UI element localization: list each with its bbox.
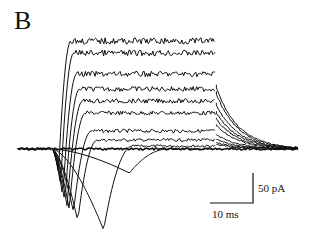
current-trace xyxy=(18,148,51,150)
scale-bar xyxy=(210,173,253,203)
current-traces-plot xyxy=(0,0,309,240)
scale-bar-y-label: 50 pA xyxy=(258,182,285,194)
current-trace xyxy=(52,148,214,173)
figure-panel: B 50 pA 10 ms xyxy=(0,0,309,240)
scale-bar-x-label: 10 ms xyxy=(212,208,239,220)
current-trace xyxy=(216,91,298,148)
current-trace xyxy=(52,111,215,208)
current-trace xyxy=(216,103,298,148)
